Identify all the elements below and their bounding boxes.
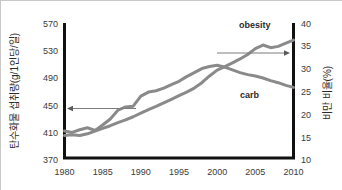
y-tick-label-right: 40	[301, 19, 311, 29]
x-tick-label: 2005	[245, 167, 265, 177]
line-chart: 570 530 490 450 410 370 40 35 30 25 20 1…	[1, 1, 342, 190]
y-tick-label-left: 570	[43, 19, 58, 29]
y-tick-label-right: 25	[301, 87, 311, 97]
y-tick-label-left: 490	[43, 73, 58, 83]
series-label-carb: carb	[240, 90, 260, 100]
y-tick-label-left: 410	[43, 128, 58, 138]
x-tick-label: 2000	[207, 167, 227, 177]
series-label-obesity: obesity	[239, 20, 271, 30]
x-tick-label: 1980	[54, 167, 74, 177]
y-axis-left-title: 탄수화물 섭취량(g/1인당/일)	[9, 33, 20, 149]
x-tick-label: 1995	[169, 167, 189, 177]
y-tick-label-left: 450	[43, 101, 58, 111]
x-tick-label: 2010	[283, 167, 303, 177]
x-tick-label: 1990	[131, 167, 151, 177]
y-tick-label-right: 15	[301, 133, 311, 143]
y-tick-label-right: 20	[301, 110, 311, 120]
y-tick-label-left: 530	[43, 46, 58, 56]
y-tick-label-right: 35	[301, 41, 311, 51]
chart-figure: 570 530 490 450 410 370 40 35 30 25 20 1…	[0, 0, 342, 190]
x-tick-label: 1985	[93, 167, 113, 177]
y-axis-right-title: 비만 비율(%)	[322, 66, 333, 120]
y-tick-label-right: 10	[301, 155, 311, 165]
y-tick-label-left: 370	[43, 155, 58, 165]
y-tick-label-right: 30	[301, 64, 311, 74]
